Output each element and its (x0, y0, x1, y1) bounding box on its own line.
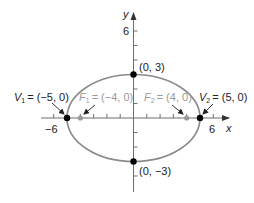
bottom-point-label: (0, −3) (139, 165, 171, 177)
v1-label: V1= (−5, 0) (14, 91, 69, 104)
y-axis-ticks (134, 31, 138, 176)
f2-pointer-arrow (172, 105, 183, 114)
f1-subscript: 1 (86, 97, 90, 104)
x-axis-label: x (225, 122, 232, 134)
f1-pointer-arrow (84, 105, 95, 114)
x-tick-label-neg6: −6 (45, 123, 58, 135)
focus-f1-point (78, 115, 83, 120)
f1-label: F1= (−4, 0) (79, 91, 133, 104)
f2-coords: = (4, 0) (157, 91, 192, 103)
f2-subscript: 2 (151, 97, 155, 104)
ellipse-diagram: −6 6 x 6 y V1= (−5, 0) F1= (−4, 0) (0, 0, 254, 203)
bottom-point (130, 158, 136, 164)
vertex-v1-point (64, 115, 70, 121)
x-tick-label-6: 6 (209, 123, 215, 135)
f1-coords: = (−4, 0) (92, 91, 134, 103)
v2-label: V2= (5, 0) (199, 91, 247, 104)
vertex-v2-point (197, 115, 203, 121)
f2-label: F2= (4, 0) (144, 91, 192, 104)
y-axis-label: y (122, 8, 130, 20)
v2-coords: = (5, 0) (212, 91, 247, 103)
v1-pointer-arrow (52, 103, 64, 114)
v2-pointer-arrow (203, 104, 213, 114)
y-tick-label-6: 6 (123, 25, 129, 37)
v1-subscript: 1 (21, 97, 25, 104)
focus-f2-point (184, 115, 189, 120)
top-point-label: (0, 3) (139, 61, 165, 73)
v2-subscript: 2 (206, 97, 210, 104)
top-point (130, 71, 136, 77)
v1-coords: = (−5, 0) (27, 91, 69, 103)
